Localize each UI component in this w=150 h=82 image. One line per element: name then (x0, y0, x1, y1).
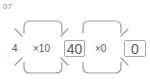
arrow-2-top (83, 21, 121, 33)
operator-2: ×0 (95, 43, 106, 55)
result-box-2: 0 (124, 40, 146, 57)
start-value: 4 (12, 43, 18, 55)
arrow-1-top (24, 21, 62, 33)
operator-1: ×10 (33, 43, 50, 55)
arrow-1-bottom (24, 62, 62, 73)
arrow-2-bottom (83, 62, 121, 73)
result-box-1: 40 (64, 40, 85, 57)
